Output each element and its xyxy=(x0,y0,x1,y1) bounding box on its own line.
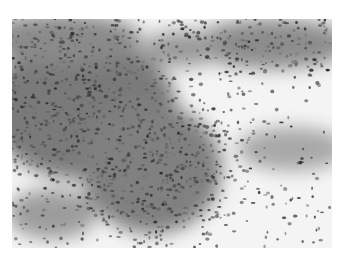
cell-nucleus xyxy=(114,24,116,27)
cell-nucleus xyxy=(205,232,207,235)
cell-nucleus xyxy=(95,193,97,195)
cell-nucleus xyxy=(31,41,33,43)
cell-nucleus xyxy=(58,45,62,48)
cell-nucleus xyxy=(270,42,274,45)
cell-nucleus xyxy=(179,133,183,135)
cell-nucleus xyxy=(67,57,72,59)
cell-nucleus xyxy=(160,186,163,190)
cell-nucleus xyxy=(219,172,222,175)
cell-nucleus xyxy=(105,62,107,64)
cell-nucleus xyxy=(143,139,147,141)
cell-nucleus xyxy=(39,78,42,82)
cell-nucleus xyxy=(165,143,167,145)
cell-nucleus xyxy=(61,80,63,82)
micrograph-canvas xyxy=(12,19,332,248)
cell-nucleus xyxy=(102,219,105,222)
cell-nucleus xyxy=(165,78,168,80)
cell-nucleus xyxy=(188,217,190,220)
cell-nucleus xyxy=(173,56,178,59)
cell-nucleus xyxy=(15,98,18,102)
cell-nucleus xyxy=(142,200,146,202)
cell-nucleus xyxy=(205,237,209,240)
cell-nucleus xyxy=(166,189,170,191)
cell-nucleus xyxy=(190,185,192,187)
cell-nucleus xyxy=(156,150,158,152)
cell-nucleus xyxy=(192,31,195,34)
cell-nucleus xyxy=(192,183,196,186)
cell-nucleus xyxy=(71,32,74,36)
cell-nucleus xyxy=(31,96,36,99)
cell-nucleus xyxy=(116,71,119,74)
cell-nucleus xyxy=(145,223,148,225)
cell-nucleus xyxy=(266,205,268,209)
cell-nucleus xyxy=(186,57,188,60)
cell-nucleus xyxy=(308,73,312,77)
cell-nucleus xyxy=(272,46,274,49)
cell-nucleus xyxy=(274,135,276,139)
cell-nucleus xyxy=(227,213,231,216)
cell-nucleus xyxy=(46,240,49,243)
cell-nucleus xyxy=(23,206,25,209)
cell-nucleus xyxy=(103,184,105,187)
cell-nucleus xyxy=(255,39,260,41)
cell-nucleus xyxy=(211,40,215,42)
cell-nucleus xyxy=(242,169,246,172)
cell-nucleus xyxy=(297,44,300,46)
cell-nucleus xyxy=(150,203,154,206)
cell-nucleus xyxy=(96,181,100,183)
cell-nucleus xyxy=(113,78,117,82)
cell-nucleus xyxy=(109,70,113,72)
cell-nucleus xyxy=(148,132,151,134)
cell-nucleus xyxy=(153,82,157,84)
cell-nucleus xyxy=(130,184,132,187)
cell-nucleus xyxy=(131,106,134,109)
cell-nucleus xyxy=(262,64,265,66)
cell-nucleus xyxy=(145,141,148,144)
cell-nucleus xyxy=(56,167,59,169)
cell-nucleus xyxy=(92,26,94,29)
cell-nucleus xyxy=(111,82,115,84)
cell-nucleus xyxy=(318,239,323,242)
cell-nucleus xyxy=(150,125,153,127)
cell-nucleus xyxy=(179,184,182,187)
cell-nucleus xyxy=(140,190,143,192)
cell-nucleus xyxy=(110,159,114,161)
cell-nucleus xyxy=(115,37,118,39)
cell-nucleus xyxy=(235,142,239,144)
cell-nucleus xyxy=(247,181,249,183)
cell-nucleus xyxy=(94,88,97,91)
cell-nucleus xyxy=(108,39,111,41)
cell-nucleus xyxy=(311,195,314,198)
cell-nucleus xyxy=(214,180,217,182)
cell-nucleus xyxy=(24,102,27,104)
cell-nucleus xyxy=(263,194,267,196)
cell-nucleus xyxy=(137,69,139,71)
cell-nucleus xyxy=(24,105,26,108)
cell-nucleus xyxy=(52,178,55,181)
cell-nucleus xyxy=(173,196,178,199)
cell-nucleus xyxy=(89,178,93,181)
cell-nucleus xyxy=(138,28,141,31)
cell-nucleus xyxy=(86,113,88,115)
cell-nucleus xyxy=(240,187,244,190)
cell-nucleus xyxy=(167,100,170,103)
cell-nucleus xyxy=(246,220,248,222)
cell-nucleus xyxy=(107,178,111,181)
cell-nucleus xyxy=(300,157,304,160)
cell-nucleus xyxy=(77,108,80,111)
cell-nucleus xyxy=(61,195,64,198)
cell-nucleus xyxy=(180,24,184,26)
cell-nucleus xyxy=(136,60,140,62)
cell-nucleus xyxy=(116,24,118,27)
cell-nucleus xyxy=(65,138,67,141)
cell-nucleus xyxy=(248,90,252,92)
cell-nucleus xyxy=(52,109,56,111)
cell-nucleus xyxy=(51,74,55,76)
cell-nucleus xyxy=(171,147,174,149)
cell-nucleus xyxy=(304,47,306,50)
cell-nucleus xyxy=(73,98,76,102)
cell-nucleus xyxy=(168,61,171,63)
cell-nucleus xyxy=(293,29,296,32)
cell-nucleus xyxy=(67,180,71,183)
cell-nucleus xyxy=(87,192,90,196)
